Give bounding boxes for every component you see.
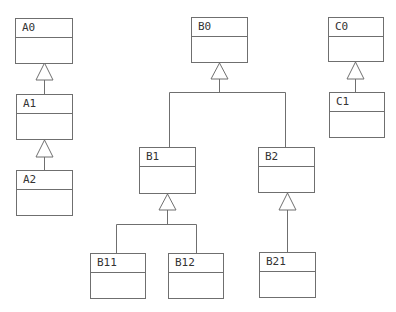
generalization-arrow-icon <box>36 140 53 157</box>
class-name: B0 <box>192 18 247 37</box>
class-body <box>91 273 145 299</box>
class-box-b0[interactable]: B0 <box>191 17 248 63</box>
class-name: B11 <box>91 254 145 273</box>
generalization-arrow-icon <box>279 193 296 210</box>
inheritance-c1-c0 <box>347 62 364 92</box>
class-body <box>16 38 72 64</box>
class-body <box>259 167 314 193</box>
inheritance-b1-b2-b0 <box>170 63 286 147</box>
class-box-a2[interactable]: A2 <box>16 170 73 216</box>
class-name: C1 <box>330 93 384 112</box>
inheritance-b21-b2 <box>279 193 296 252</box>
class-name: B21 <box>260 253 315 272</box>
class-box-c0[interactable]: C0 <box>328 17 384 62</box>
class-box-a0[interactable]: A0 <box>15 18 73 64</box>
class-name: C0 <box>329 18 383 37</box>
class-diagram: A0 A1 A2 B0 B1 B2 B11 B12 B21 C0 C1 <box>0 0 396 312</box>
class-box-b21[interactable]: B21 <box>259 252 316 298</box>
class-body <box>140 167 195 193</box>
class-box-b12[interactable]: B12 <box>168 253 224 299</box>
class-box-b11[interactable]: B11 <box>90 253 146 299</box>
inheritance-b11-b12-b1 <box>117 194 197 253</box>
generalization-arrow-icon <box>159 194 176 210</box>
inheritance-a1-a0 <box>36 63 53 94</box>
class-name: B2 <box>259 148 314 167</box>
class-body <box>329 37 383 63</box>
class-box-b1[interactable]: B1 <box>139 147 196 194</box>
class-box-b2[interactable]: B2 <box>258 147 315 193</box>
class-body <box>192 37 247 63</box>
class-name: A1 <box>17 95 72 114</box>
class-body <box>17 190 72 216</box>
class-name: B12 <box>169 254 223 273</box>
class-name: A2 <box>17 171 72 190</box>
class-body <box>260 272 315 298</box>
class-body <box>169 273 223 299</box>
class-body <box>330 112 384 138</box>
class-name: B1 <box>140 148 195 167</box>
class-name: A0 <box>16 19 72 38</box>
class-box-a1[interactable]: A1 <box>16 94 73 140</box>
generalization-arrow-icon <box>36 63 53 80</box>
inheritance-a2-a1 <box>36 140 53 170</box>
generalization-arrow-icon <box>347 62 364 79</box>
generalization-arrow-icon <box>211 63 228 79</box>
class-body <box>17 114 72 140</box>
class-box-c1[interactable]: C1 <box>329 92 385 138</box>
